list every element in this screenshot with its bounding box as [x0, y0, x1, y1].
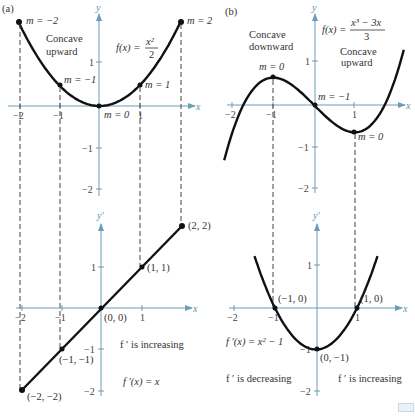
concave-down-label: Concave — [249, 29, 286, 40]
point-label: (−2, −2) — [27, 391, 62, 403]
y-axis-label: y′ — [96, 210, 104, 221]
y-tick: −2 — [84, 386, 95, 397]
function-denominator: 3 — [364, 31, 369, 42]
x-axis-label: x — [405, 100, 411, 111]
point-label: (1, 0) — [360, 293, 383, 305]
y-axis-label: y′ — [312, 210, 320, 221]
x-axis-label: x — [195, 101, 201, 112]
function-denominator: 2 — [149, 49, 154, 60]
concave-down-label: downward — [249, 41, 294, 52]
slope-label: m = −1 — [64, 74, 96, 85]
point-label: (0, 0) — [104, 312, 127, 324]
concave-up-label: Concave — [340, 46, 377, 57]
slope-label: m = 0 — [259, 61, 285, 72]
x-tick: −2 — [15, 312, 26, 323]
panel-a-bottom-graph: x y′ −2 −1 1 1 −1 −2 (2, 2) (1, 1) (0, 0… — [15, 210, 211, 403]
behavior-label: f ′ is increasing — [120, 339, 185, 350]
point-label: (−1, 0) — [278, 293, 307, 305]
concavity-label: upward — [46, 46, 78, 57]
decreasing-label: f ′ is decreasing — [226, 373, 292, 384]
y-axis-label: y — [95, 2, 101, 13]
x-tick: −1 — [53, 110, 64, 121]
x-tick: −1 — [266, 109, 277, 120]
y-tick: −2 — [298, 183, 309, 194]
slope-label: m = 2 — [187, 15, 213, 26]
y-tick: 1 — [91, 262, 96, 273]
function-label: f ′(x) = x² − 1 — [226, 336, 283, 348]
slope-label: m = 1 — [145, 79, 170, 90]
panel-b-label: (b) — [225, 6, 238, 18]
x-tick: 1 — [355, 312, 360, 323]
guide-lines — [273, 80, 355, 308]
point-label: (2, 2) — [188, 220, 211, 232]
point-label: (1, 1) — [147, 262, 170, 274]
point-label: (−1, −1) — [59, 354, 94, 366]
x-tick: 1 — [140, 312, 145, 323]
panel-b-bottom-graph: x y′ −2 −1 1 1 −1 −2 (−1, 0) (1, 0) (0, … — [226, 210, 408, 397]
function-label: f ′(x) = x — [123, 376, 160, 388]
slope-label: m = −1 — [318, 91, 350, 102]
x-axis-label: x — [192, 303, 198, 314]
x-tick: 1 — [352, 109, 357, 120]
slope-label: m = 0 — [358, 131, 384, 142]
y-tick: −1 — [82, 143, 93, 154]
x-tick: −2 — [225, 109, 236, 120]
function-numerator: x³ − 3x — [350, 17, 381, 28]
x-tick: −2 — [13, 110, 24, 121]
concavity-label: Concave — [46, 33, 83, 44]
y-tick: 1 — [305, 56, 310, 67]
y-tick: −1 — [298, 142, 309, 153]
y-tick: −2 — [300, 386, 311, 397]
y-tick: 1 — [307, 260, 312, 271]
derivative-concavity-figure: (a) x y −2 −1 1 1 −1 −2 m = −2 m = −1 m … — [0, 0, 415, 418]
increasing-label: f ′ is increasing — [338, 373, 403, 384]
x-tick: −1 — [55, 312, 66, 323]
y-tick: 1 — [89, 57, 94, 68]
function-label: f(x) = — [322, 24, 346, 36]
concave-up-label: upward — [341, 57, 373, 68]
y-tick: −2 — [82, 184, 93, 195]
x-tick: −2 — [227, 312, 238, 323]
panel-b-top-graph: (b) x y −2 −1 1 1 −1 −2 m = 0 m = −1 m =… — [224, 2, 411, 194]
point-label: (0, −1) — [320, 352, 349, 364]
function-numerator: x² — [145, 36, 155, 47]
corner-widget[interactable] — [398, 403, 414, 412]
y-axis-label: y — [311, 2, 317, 13]
function-label: f(x) = — [116, 42, 140, 54]
x-axis-label: x — [402, 303, 408, 314]
slope-label: m = 0 — [104, 109, 130, 120]
panel-a-label: (a) — [2, 3, 14, 15]
slope-label: m = −2 — [26, 15, 59, 26]
